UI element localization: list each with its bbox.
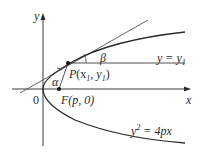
horizontal-line-label: y = y1 bbox=[157, 52, 186, 69]
hline-sub: 1 bbox=[182, 58, 186, 67]
y-axis-label: y bbox=[34, 10, 39, 22]
origin-label: 0 bbox=[33, 94, 39, 106]
point-mid: , y bbox=[90, 67, 101, 81]
eq-rhs: = 4px bbox=[140, 124, 171, 138]
parabola-equation-label: y2 = 4px bbox=[131, 122, 172, 137]
x-axis-label: x bbox=[186, 94, 191, 106]
focus-label: F(p, 0) bbox=[61, 94, 94, 106]
point-close: ) bbox=[106, 67, 110, 81]
focus-coords: (p, 0) bbox=[68, 93, 94, 107]
y-axis-arrow-icon bbox=[41, 13, 46, 20]
parabola-diagram: y x 0 F(p, 0) P(x1, y1) β α y = y1 y2 = … bbox=[0, 0, 201, 155]
beta-label: β bbox=[100, 52, 106, 64]
point-p-label: P(x1, y1) bbox=[69, 68, 110, 85]
alpha-label: α bbox=[52, 76, 58, 88]
hline-lhs: y = y bbox=[157, 51, 182, 65]
x-axis-arrow-icon bbox=[184, 87, 191, 92]
point-p-dot bbox=[66, 61, 70, 65]
point-open: (x bbox=[76, 67, 86, 81]
